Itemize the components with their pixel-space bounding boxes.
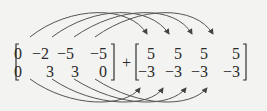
right-cell-r2c2: −3 xyxy=(160,64,182,80)
arrow-top-2 xyxy=(52,13,169,37)
left-cell-r1c1: 0 xyxy=(0,46,22,62)
right-cell-r1c3: 5 xyxy=(186,46,208,62)
left-cell-r1c3: −5 xyxy=(52,46,74,62)
left-cell-r1c2: −2 xyxy=(27,46,49,62)
arrow-bottom-4 xyxy=(95,79,207,102)
right-cell-r2c1: −3 xyxy=(133,64,155,80)
matrix-addition-diagram: 0 −2 −5 −5 0 3 3 0 + 5 5 5 5 −3 −3 −3 −3 xyxy=(0,0,267,111)
left-cell-r2c4: 0 xyxy=(85,64,107,80)
left-cell-r1c4: −5 xyxy=(85,46,107,62)
arrow-top-3 xyxy=(74,13,192,37)
plus-operator: + xyxy=(122,55,131,71)
arrow-bottom-3 xyxy=(74,79,186,102)
arrow-top-1 xyxy=(30,13,147,37)
left-cell-r2c1: 0 xyxy=(0,64,22,80)
right-cell-r1c1: 5 xyxy=(133,46,155,62)
right-cell-r2c3: −3 xyxy=(186,64,208,80)
arrow-bottom-2 xyxy=(52,79,163,102)
left-cell-r2c2: 3 xyxy=(32,64,54,80)
right-bracket-close xyxy=(243,44,246,80)
left-bracket-close xyxy=(111,44,114,80)
right-cell-r1c2: 5 xyxy=(160,46,182,62)
right-cell-r2c4: −3 xyxy=(218,64,240,80)
arrow-top-4 xyxy=(95,13,213,37)
right-cell-r1c4: 5 xyxy=(218,46,240,62)
arrow-bottom-1 xyxy=(30,79,140,102)
left-cell-r2c3: 3 xyxy=(57,64,79,80)
